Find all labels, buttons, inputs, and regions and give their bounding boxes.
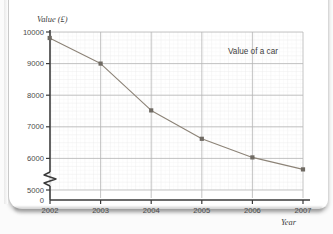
- chart-svg: 10000 9000 8000 7000 6000 5000 0 2002 20…: [0, 0, 333, 234]
- y-tick-label-9000: 9000: [27, 59, 44, 68]
- data-point-2004[interactable]: [149, 108, 153, 112]
- screenshot-root: 10000 9000 8000 7000 6000 5000 0 2002 20…: [0, 0, 333, 234]
- data-point-2006[interactable]: [250, 155, 254, 159]
- y-tick-label-7000: 7000: [27, 122, 44, 131]
- y-tick-label-10000: 10000: [23, 28, 44, 37]
- data-point-2003[interactable]: [99, 62, 103, 66]
- x-tick-label-2003: 2003: [92, 206, 109, 215]
- x-tick-label-2006: 2006: [244, 206, 261, 215]
- line-chart: 10000 9000 8000 7000 6000 5000 0 2002 20…: [0, 0, 333, 234]
- x-axis-title: Year: [281, 218, 297, 227]
- y-tick-label-6000: 6000: [27, 154, 44, 163]
- data-point-2002[interactable]: [48, 36, 52, 40]
- y-axis-title: Value (£): [37, 15, 68, 24]
- y-tick-label-0: 0: [40, 196, 44, 205]
- x-tick-label-2002: 2002: [42, 206, 59, 215]
- x-tick-label-2005: 2005: [193, 206, 210, 215]
- data-point-2005[interactable]: [200, 137, 204, 141]
- data-point-2007[interactable]: [301, 167, 305, 171]
- y-tick-label-5000: 5000: [27, 186, 44, 195]
- series-annotation: Value of a car: [228, 47, 278, 56]
- x-tick-label-2004: 2004: [143, 206, 160, 215]
- y-tick-label-8000: 8000: [27, 91, 44, 100]
- x-tick-label-2007: 2007: [295, 206, 312, 215]
